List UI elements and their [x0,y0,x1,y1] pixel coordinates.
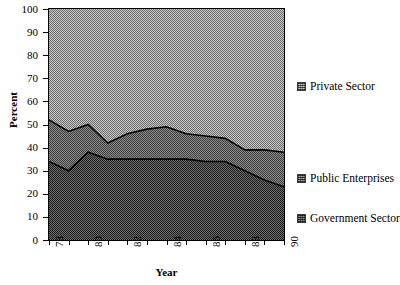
y-axis-title: Percent [7,75,19,145]
x-axis-tick-label: 86 [211,236,221,247]
x-axis-tick-label: 90 [289,236,299,247]
x-axis-tick-mark [88,240,89,245]
y-axis-tick-label: 40 [6,142,38,152]
x-axis-tick-label: 84 [172,236,182,247]
x-axis-title: Year [48,266,285,278]
x-axis-tick-mark [206,240,207,245]
y-axis-tick-label: 50 [6,119,38,129]
area-series-svg [49,9,284,240]
legend-item-label: Government Sector [310,212,400,224]
x-axis-tick-mark [127,240,128,245]
y-axis-tick-label: 20 [6,188,38,198]
y-axis-tick-label: 30 [6,165,38,175]
x-axis-tick-mark [245,240,246,245]
x-axis-tick-mark [69,240,70,245]
legend-item-label: Public Enterprises [310,172,394,184]
legend-swatch-icon [297,174,306,183]
x-axis-tick-mark [225,240,226,245]
x-axis-tick-mark [264,240,265,245]
y-axis-tick-label: 100 [6,4,38,14]
legend-item-label: Private Sector [310,80,375,92]
plot-area [48,8,285,241]
legend-item-public-enterprises[interactable]: Public Enterprises [297,172,394,184]
y-axis-tick-label: 80 [6,50,38,60]
legend-swatch-icon [297,82,306,91]
legend-swatch-icon [297,214,306,223]
y-axis-tick-label: 90 [6,27,38,37]
x-axis-tick-mark [108,240,109,245]
x-axis-tick-label: 80 [93,236,103,247]
x-axis-tick-label: 88 [250,236,260,247]
x-axis-tick-mark [284,240,285,245]
x-axis-tick-mark [49,240,50,245]
y-axis-tick-label: 10 [6,211,38,221]
x-axis-tick-mark [147,240,148,245]
x-axis-tick-label: 82 [132,236,142,247]
x-axis-tick-label: 78 [54,236,64,247]
legend-item-government-sector[interactable]: Government Sector [297,212,400,224]
y-axis-tick-label: 60 [6,96,38,106]
x-axis-tick-mark [186,240,187,245]
y-axis-tick-label: 0 [6,235,38,245]
legend-item-private-sector[interactable]: Private Sector [297,80,375,92]
x-axis-tick-mark [167,240,168,245]
y-axis-tick-label: 70 [6,73,38,83]
